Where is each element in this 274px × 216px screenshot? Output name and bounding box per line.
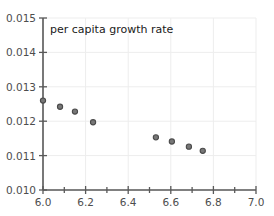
data-point (40, 98, 45, 103)
chart-title: per capita growth rate (50, 23, 173, 36)
x-tick-label-3: 6.6 (162, 196, 179, 208)
grid-horizontal (43, 18, 256, 190)
x-tick-label-5: 7.0 (248, 196, 265, 208)
data-point (186, 144, 191, 149)
x-axis-tick-labels: 6.0 6.2 6.4 6.6 6.8 7.0 (35, 196, 265, 208)
y-tick-label-2: 0.012 (6, 115, 36, 127)
x-tick-label-4: 6.8 (205, 196, 222, 208)
y-tick-label-3: 0.013 (6, 81, 36, 93)
data-point (200, 148, 205, 153)
data-point (72, 109, 77, 114)
x-tick-label-0: 6.0 (35, 196, 52, 208)
y-tick-label-0: 0.010 (6, 184, 36, 196)
scatter-plot-figure: 0.010 0.011 0.012 0.013 0.014 0.015 6.0 … (0, 0, 274, 216)
data-points-layer (40, 98, 205, 153)
x-tick-label-1: 6.2 (77, 196, 94, 208)
data-point (153, 135, 158, 140)
data-point (90, 120, 95, 125)
y-tick-label-4: 0.014 (6, 46, 36, 58)
data-point (169, 139, 174, 144)
y-axis-tick-labels: 0.010 0.011 0.012 0.013 0.014 0.015 (6, 12, 36, 196)
data-point (57, 104, 62, 109)
plot-canvas: 0.010 0.011 0.012 0.013 0.014 0.015 6.0 … (0, 0, 274, 216)
grid-vertical (43, 18, 256, 190)
y-tick-label-5: 0.015 (6, 12, 36, 24)
y-tick-label-1: 0.011 (6, 150, 36, 162)
x-tick-label-2: 6.4 (120, 196, 137, 208)
